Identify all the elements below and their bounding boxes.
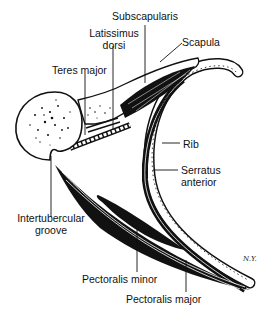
- anatomy-figure: Subscapularis Latissimus dorsi Scapula T…: [0, 0, 273, 315]
- label-serratus-anterior: Serratus anterior: [181, 164, 221, 188]
- label-teres-major: Teres major: [52, 64, 107, 76]
- label-intertubercular-line2: groove: [8, 224, 94, 236]
- label-latissimus-line1: Latissimus: [86, 27, 142, 39]
- artist-signature: N.Y.: [243, 255, 257, 263]
- label-serratus-line2: anterior: [181, 176, 221, 188]
- label-intertubercular-line1: Intertubercular: [8, 212, 94, 224]
- label-latissimus-line2: dorsi: [86, 39, 142, 51]
- label-pectoralis-major: Pectoralis major: [126, 293, 201, 305]
- label-scapula: Scapula: [182, 36, 220, 48]
- label-intertubercular-groove: Intertubercular groove: [8, 212, 94, 236]
- label-serratus-line1: Serratus: [181, 164, 221, 176]
- label-subscapularis: Subscapularis: [112, 10, 178, 22]
- label-latissimus-dorsi: Latissimus dorsi: [86, 27, 142, 51]
- label-pectoralis-minor: Pectoralis minor: [82, 273, 157, 285]
- label-rib: Rib: [183, 138, 199, 150]
